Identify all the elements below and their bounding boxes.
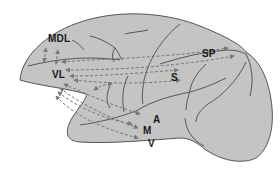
label-vl: VL xyxy=(52,70,65,80)
label-mdl: MDL xyxy=(48,34,70,44)
label-a: A xyxy=(153,115,160,125)
label-v: V xyxy=(148,139,155,149)
label-m: M xyxy=(143,126,152,136)
label-s: S xyxy=(171,73,178,83)
brain-diagram: MDL VL SP S A M V xyxy=(0,0,280,178)
label-sp: SP xyxy=(202,49,216,59)
brain-svg xyxy=(0,0,280,178)
